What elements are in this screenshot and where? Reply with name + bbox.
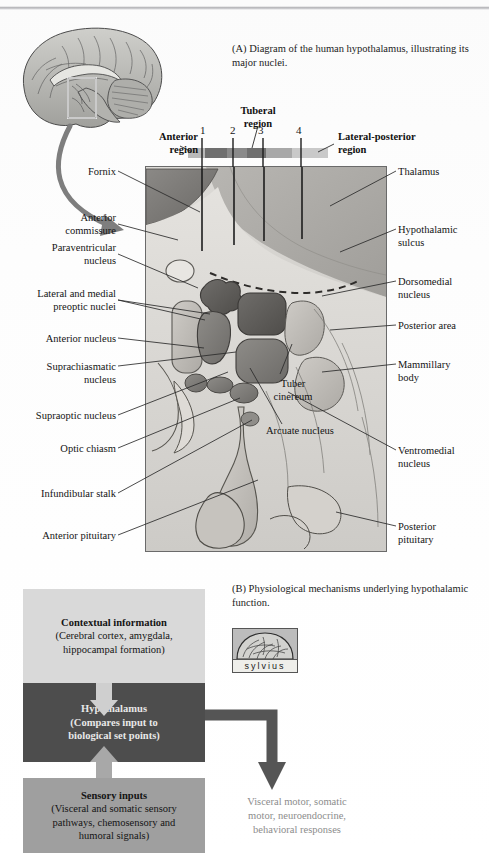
sylvius-logo[interactable]: sylvius — [232, 628, 298, 673]
flow-box-contextual-information: Contextual information (Cerebral cortex,… — [23, 589, 205, 683]
label-thalamus: Thalamus — [398, 166, 484, 179]
label-ventromedial-nucleus: Ventromedial nucleus — [398, 445, 484, 470]
label-infundibular-stalk: Infundibular stalk — [18, 488, 116, 501]
flow-box-detail: (Compares input to biological set points… — [68, 716, 160, 743]
label-fornix: Fornix — [58, 166, 116, 179]
label-preoptic-nuclei: Lateral and medial preoptic nuclei — [10, 288, 116, 313]
label-supraoptic-nucleus: Supraoptic nucleus — [12, 410, 116, 423]
label-mammillary-body: Mammillary body — [398, 359, 484, 384]
label-anterior-nucleus: Anterior nucleus — [18, 333, 116, 346]
arrow-hypothalamus-to-output — [258, 762, 286, 790]
label-dorsomedial-nucleus: Dorsomedial nucleus — [398, 276, 484, 301]
region-tick-4: 4 — [296, 124, 302, 136]
label-anterior-region: Anterior region — [140, 130, 198, 156]
region-seg-4 — [266, 148, 291, 158]
region-seg-3 — [247, 148, 267, 158]
flow-box-sensory-inputs: Sensory inputs (Visceral and somatic sen… — [23, 778, 205, 853]
label-arcuate-nucleus: Arcuate nucleus — [266, 425, 366, 438]
hypothalamus-region-bar — [188, 148, 328, 158]
label-tuber-cinereum: Tuber cinereum — [262, 378, 324, 403]
region-seg-5 — [292, 148, 328, 158]
brain-midsagittal-inset — [16, 24, 168, 136]
label-anterior-pituitary: Anterior pituitary — [18, 530, 116, 543]
flow-box-detail: (Cerebral cortex, amygdala, hippocampal … — [55, 629, 172, 656]
region-seg-1 — [205, 148, 227, 158]
flow-box-title: Sensory inputs — [81, 789, 147, 803]
sylvius-wordmark: sylvius — [233, 659, 297, 672]
hypothalamus-section-illustration — [145, 166, 387, 552]
label-posterior-pituitary: Posterior pituitary — [398, 521, 484, 546]
label-optic-chiasm: Optic chiasm — [42, 443, 116, 456]
region-seg-2 — [227, 148, 247, 158]
flow-box-hypothalamus: Hypothalamus (Compares input to biologic… — [23, 683, 205, 762]
scan-artifact-line — [0, 6, 489, 10]
brain-icon — [233, 629, 297, 659]
label-posterior-area: Posterior area — [398, 320, 484, 333]
flow-box-title: Hypothalamus — [81, 702, 147, 716]
label-tuberal-region: Tuberal region — [228, 104, 288, 130]
label-suprachiasmatic-nucleus: Suprachiasmatic nucleus — [18, 361, 116, 386]
flow-box-detail: (Visceral and somatic sensory pathways, … — [51, 802, 177, 843]
flow-box-title: Contextual information — [61, 616, 167, 630]
region-tick-1: 1 — [200, 124, 206, 136]
panel-a-caption: (A) Diagram of the human hypothalamus, i… — [232, 42, 482, 70]
panel-b-caption: (B) Physiological mechanisms underlying … — [232, 582, 482, 610]
label-lateral-posterior-region: Lateral-posterior region — [338, 130, 448, 156]
label-anterior-commissure: Anterior commissure — [18, 212, 116, 237]
output-responses-text: Visceral motor, somatic motor, neuroendo… — [222, 795, 372, 837]
label-hypothalamic-sulcus: Hypothalamic sulcus — [398, 224, 484, 249]
label-paraventricular-nucleus: Paraventricular nucleus — [18, 242, 116, 267]
